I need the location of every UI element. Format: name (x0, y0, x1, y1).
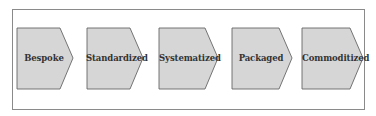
step-label-bespoke: Bespoke (17, 51, 71, 65)
step-label-commoditized: Commoditized (302, 51, 362, 65)
step-label-systematized: Systematized (159, 51, 217, 65)
step-label-packaged: Packaged (232, 51, 290, 65)
step-label-standardized: Standardized (86, 51, 143, 65)
process-flow: Bespoke Standardized Systematized Packag… (0, 0, 376, 116)
